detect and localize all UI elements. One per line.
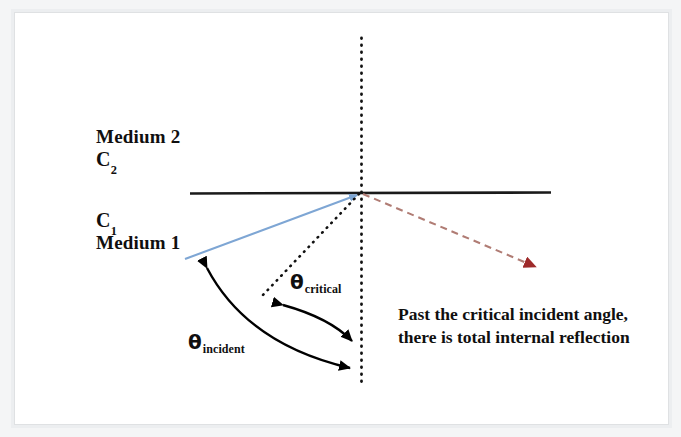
interface-line	[190, 193, 551, 194]
label-theta-incident: θincident	[188, 330, 244, 354]
label-speed-c2-subscript: 2	[111, 163, 117, 177]
incident-ray	[185, 195, 357, 259]
theta-incident-subscript: incident	[203, 342, 245, 356]
critical-angle-arc-arrow	[283, 305, 352, 341]
theta-critical-subscript: critical	[305, 282, 342, 296]
theta-critical-symbol: θ	[290, 270, 304, 294]
theta-incident-symbol: θ	[188, 330, 202, 354]
label-speed-c2: C2	[96, 148, 117, 175]
figure-canvas: Medium 2 C2 C1 Medium 1 θcritical θincid…	[0, 0, 681, 437]
label-speed-c2-base: C	[96, 148, 111, 170]
label-medium-2: Medium 2	[96, 126, 180, 148]
annotation-note: Past the critical incident angle, there …	[398, 303, 638, 349]
label-medium-1: Medium 1	[96, 232, 180, 254]
reflected-ray	[363, 194, 534, 266]
label-theta-critical: θcritical	[290, 270, 341, 294]
label-speed-c1-base: C	[96, 209, 111, 231]
